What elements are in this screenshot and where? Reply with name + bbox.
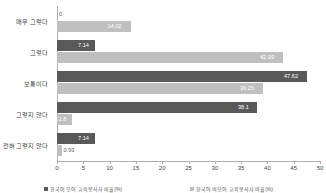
legend-label: 한국어 모어 교육봉사자 비율(%) [50, 186, 122, 192]
bar-series-dark[interactable] [57, 102, 257, 113]
x-tick-mark [267, 161, 268, 164]
x-axis-ticks: 0 5 10 15 20 25 30 35 [57, 161, 320, 175]
bar-track-series-dark: 7.14 [57, 40, 320, 51]
x-tick-mark [241, 161, 242, 164]
bar-value-series-light: 42.99 [260, 52, 274, 63]
bar-value-series-light: 14.02 [108, 21, 122, 32]
category-label: 전혀 그렇지 않다 [0, 130, 48, 161]
category-label: 매우 그렇다 [0, 6, 48, 37]
bar-track-series-dark: 38.1 [57, 102, 320, 113]
bar-series-light[interactable] [57, 145, 62, 156]
chart-legend: 한국어 모어 교육봉사자 비율(%) 한국어 비모어 교육봉사자 비율(%) [0, 186, 326, 193]
x-tick-mark [110, 161, 111, 164]
category-group: 그렇다 7.14 42.99 [57, 37, 320, 68]
bar-track-series-light: 0.93 [57, 145, 320, 156]
legend-item-series-light[interactable]: 한국어 비모어 교육봉사자 비율(%) [190, 186, 273, 192]
bar-value-series-dark: 38.1 [238, 102, 249, 113]
category-label: 그렇다 [0, 37, 48, 68]
x-tick-mark [320, 161, 321, 164]
bar-series-light[interactable] [57, 83, 263, 94]
x-tick-label: 40 [264, 165, 271, 171]
x-tick-label: 20 [159, 165, 166, 171]
bar-track-series-dark: 47.62 [57, 71, 320, 82]
x-tick-label: 15 [133, 165, 140, 171]
bar-value-series-light: 2.8 [59, 114, 67, 125]
x-tick-mark [57, 161, 58, 164]
x-tick-mark [162, 161, 163, 164]
x-tick-label: 30 [211, 165, 218, 171]
bar-track-series-light: 39.25 [57, 83, 320, 94]
x-tick-label: 50 [317, 165, 324, 171]
bar-value-series-dark: 7.14 [78, 133, 89, 144]
bar-value-series-dark: 0 [59, 9, 62, 20]
bar-track-series-light: 42.99 [57, 52, 320, 63]
x-tick-label: 25 [185, 165, 192, 171]
legend-label: 한국어 비모어 교육봉사자 비율(%) [196, 186, 273, 192]
x-tick-label: 35 [238, 165, 245, 171]
bar-track-series-light: 2.8 [57, 114, 320, 125]
bar-value-series-light: 39.25 [240, 83, 254, 94]
bar-value-series-dark: 47.62 [284, 71, 298, 82]
category-group: 그렇지 않다 38.1 2.8 [57, 99, 320, 130]
legend-swatch-icon [190, 187, 194, 191]
category-group: 보통이다 47.62 39.25 [57, 68, 320, 99]
x-tick-label: 45 [290, 165, 297, 171]
legend-swatch-icon [44, 187, 48, 191]
bar-track-series-dark: 0 [57, 9, 320, 20]
category-group: 매우 그렇다 0 14.02 [57, 6, 320, 37]
category-group: 전혀 그렇지 않다 7.14 0.93 [57, 130, 320, 161]
x-tick-label: 5 [82, 165, 85, 171]
bar-value-series-light: 0.93 [64, 145, 75, 156]
bar-track-series-light: 14.02 [57, 21, 320, 32]
bar-series-light[interactable] [57, 52, 283, 63]
x-tick-mark [136, 161, 137, 164]
bar-track-series-dark: 7.14 [57, 133, 320, 144]
bar-value-series-dark: 7.14 [78, 40, 89, 51]
x-tick-label: 10 [106, 165, 113, 171]
plot-area: 매우 그렇다 0 14.02 그렇다 7.14 42.99 보통 [57, 6, 320, 161]
legend-item-series-dark[interactable]: 한국어 모어 교육봉사자 비율(%) [44, 186, 122, 192]
bar-series-dark[interactable] [57, 71, 307, 82]
x-tick-mark [215, 161, 216, 164]
x-tick-mark [294, 161, 295, 164]
x-tick-label: 0 [55, 165, 58, 171]
category-label: 보통이다 [0, 68, 48, 99]
horizontal-bar-chart: 매우 그렇다 0 14.02 그렇다 7.14 42.99 보통 [0, 0, 326, 193]
category-label: 그렇지 않다 [0, 99, 48, 130]
x-tick-mark [83, 161, 84, 164]
x-tick-mark [189, 161, 190, 164]
